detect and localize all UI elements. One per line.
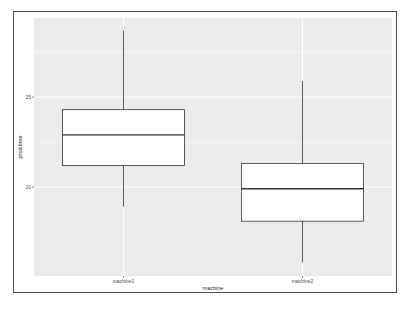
- y-axis: 2025: [25, 94, 34, 190]
- iqr-box: [242, 164, 364, 222]
- x-tick-label: machine2: [292, 278, 314, 284]
- y-tick-label: 20: [25, 184, 31, 190]
- x-axis: machine1machine2: [113, 276, 314, 284]
- boxplot-chart: 2025 machine1machine2 machine prod.time: [0, 0, 408, 309]
- x-axis-title: machine: [203, 285, 224, 291]
- y-axis-title: prod.time: [17, 136, 23, 159]
- x-tick-label: machine1: [113, 278, 135, 284]
- y-tick-label: 25: [25, 94, 31, 100]
- iqr-box: [63, 110, 185, 166]
